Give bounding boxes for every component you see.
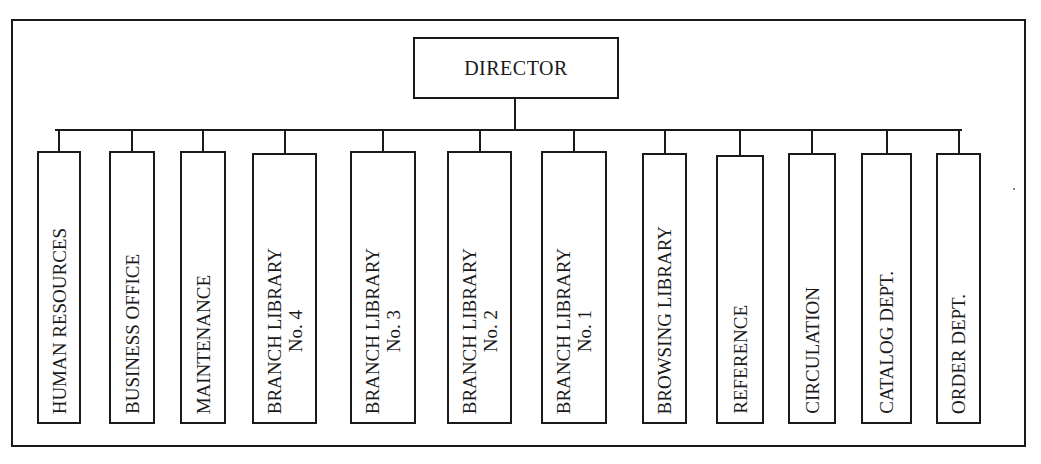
department-label-line2: No. 4 bbox=[285, 248, 306, 414]
department-box: BROWSING LIBRARY bbox=[642, 153, 687, 424]
department-label: HUMAN RESOURCES bbox=[49, 228, 70, 422]
department-connector bbox=[958, 129, 960, 153]
department-label: CATALOG DEPT. bbox=[876, 271, 897, 422]
department-connector bbox=[811, 129, 813, 153]
department-label-line1: ORDER DEPT. bbox=[948, 294, 969, 414]
department-label-line1: HUMAN RESOURCES bbox=[49, 228, 70, 414]
department-label-line1: BRANCH LIBRARY bbox=[459, 248, 480, 414]
department-label: BRANCH LIBRARYNo. 1 bbox=[553, 248, 595, 422]
department-connector bbox=[202, 129, 204, 151]
department-label: BRANCH LIBRARYNo. 3 bbox=[362, 248, 404, 422]
department-connector bbox=[886, 129, 888, 153]
department-label-line1: CIRCULATION bbox=[802, 287, 823, 414]
department-box: BUSINESS OFFICE bbox=[109, 151, 155, 424]
director-label: DIRECTOR bbox=[464, 57, 568, 80]
department-label-line2: No. 3 bbox=[383, 248, 404, 414]
department-label: BUSINESS OFFICE bbox=[122, 254, 143, 422]
department-box: BRANCH LIBRARYNo. 3 bbox=[350, 151, 416, 424]
department-box: BRANCH LIBRARYNo. 4 bbox=[252, 153, 317, 424]
department-connector bbox=[739, 129, 741, 155]
department-box: BRANCH LIBRARYNo. 1 bbox=[541, 151, 607, 424]
department-label: REFERENCE bbox=[730, 305, 751, 422]
department-box: CATALOG DEPT. bbox=[861, 153, 912, 424]
department-connector bbox=[382, 129, 384, 151]
department-connector bbox=[664, 129, 666, 153]
department-label-line2: No. 2 bbox=[480, 248, 501, 414]
department-label-line1: BRANCH LIBRARY bbox=[264, 248, 285, 414]
department-label-line2: No. 1 bbox=[574, 248, 595, 414]
department-label: MAINTENANCE bbox=[193, 275, 214, 422]
stray-mark bbox=[1013, 188, 1015, 190]
department-label: BRANCH LIBRARYNo. 2 bbox=[459, 248, 501, 422]
department-label: BROWSING LIBRARY bbox=[654, 226, 675, 422]
horizontal-bus bbox=[55, 129, 962, 131]
department-box: HUMAN RESOURCES bbox=[37, 151, 81, 424]
department-connector bbox=[284, 129, 286, 153]
director-box: DIRECTOR bbox=[413, 37, 619, 99]
department-box: REFERENCE bbox=[716, 155, 764, 424]
department-connector bbox=[479, 129, 481, 151]
department-label-line1: CATALOG DEPT. bbox=[876, 271, 897, 414]
department-label: CIRCULATION bbox=[802, 287, 823, 422]
department-label-line1: MAINTENANCE bbox=[193, 275, 214, 414]
department-connector bbox=[58, 129, 60, 151]
department-box: BRANCH LIBRARYNo. 2 bbox=[447, 151, 512, 424]
department-label-line1: REFERENCE bbox=[730, 305, 751, 414]
department-connector bbox=[131, 129, 133, 151]
department-box: CIRCULATION bbox=[788, 153, 836, 424]
department-label-line1: BRANCH LIBRARY bbox=[362, 248, 383, 414]
department-label-line1: BRANCH LIBRARY bbox=[553, 248, 574, 414]
department-label-line1: BROWSING LIBRARY bbox=[654, 226, 675, 414]
department-label: BRANCH LIBRARYNo. 4 bbox=[264, 248, 306, 422]
department-label-line1: BUSINESS OFFICE bbox=[122, 254, 143, 414]
department-connector bbox=[573, 129, 575, 151]
department-box: MAINTENANCE bbox=[180, 151, 226, 424]
department-box: ORDER DEPT. bbox=[936, 153, 981, 424]
department-label: ORDER DEPT. bbox=[948, 294, 969, 422]
director-connector bbox=[514, 98, 516, 131]
